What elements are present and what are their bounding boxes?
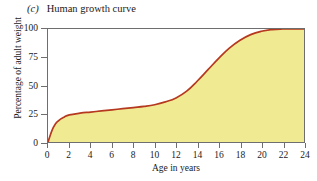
x-tick-mark [284,143,285,148]
x-tick-label: 12 [166,150,186,161]
y-tick-label: 25 [0,110,38,119]
x-tick-mark [69,143,70,148]
y-tick-label: 0 [0,139,38,148]
x-tick-mark [219,143,220,148]
x-tick-mark [305,143,306,148]
x-tick-label: 8 [123,150,143,161]
growth-curve-svg [48,29,304,142]
x-tick-mark [112,143,113,148]
x-tick-label: 4 [80,150,100,161]
x-tick-mark [198,143,199,148]
x-tick-mark [133,143,134,148]
x-axis-title: Age in years [47,163,305,174]
y-tick-label: 50 [0,81,38,90]
x-tick-mark [90,143,91,148]
x-tick-label: 24 [295,150,315,161]
panel-letter: (c) [27,3,39,14]
plot-area [47,28,305,143]
y-tick-label: 75 [0,52,38,61]
x-tick-mark [155,143,156,148]
x-tick-label: 20 [252,150,272,161]
x-tick-label: 22 [274,150,294,161]
x-tick-label: 6 [102,150,122,161]
x-tick-mark [176,143,177,148]
x-tick-mark [262,143,263,148]
x-tick-label: 16 [209,150,229,161]
chart-title-text: Human growth curve [47,3,136,14]
x-tick-label: 10 [145,150,165,161]
x-tick-label: 18 [231,150,251,161]
growth-curve-area [48,29,304,142]
x-tick-label: 14 [188,150,208,161]
x-tick-label: 0 [37,150,57,161]
x-tick-mark [47,143,48,148]
y-tick-label: 100 [0,24,38,33]
x-tick-mark [241,143,242,148]
x-tick-label: 2 [59,150,79,161]
chart-title: (c)Human growth curve [27,2,136,15]
